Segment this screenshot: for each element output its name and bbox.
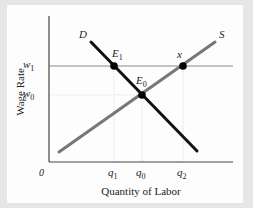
y-axis-title: Wage Rate: [14, 68, 26, 116]
supply-label: S: [219, 28, 225, 40]
point-e0: [138, 91, 146, 99]
origin-label: 0: [39, 167, 44, 178]
point-x: [179, 62, 187, 70]
q0-tick-label: q0: [136, 166, 146, 181]
supply-curve: [59, 42, 215, 152]
demand-label: D: [78, 28, 87, 40]
e0-label: E0: [135, 74, 147, 89]
e1-label: E1: [111, 47, 123, 62]
point-e1: [110, 62, 118, 70]
labor-market-diagram: D S E1 E0 x w1 w0 0 q1 q0 q2 Quantity of…: [0, 0, 253, 208]
q2-tick-label: q2: [177, 166, 187, 181]
x-point-label: x: [176, 48, 182, 60]
q1-tick-label: q1: [108, 166, 118, 181]
x-axis-title: Quantity of Labor: [101, 185, 181, 197]
